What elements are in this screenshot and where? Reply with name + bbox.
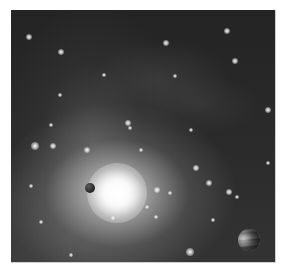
star: [173, 74, 177, 78]
star: [39, 220, 43, 224]
star: [102, 73, 106, 77]
star: [235, 195, 239, 199]
star: [265, 107, 271, 113]
gas-giant-planet: [238, 229, 260, 251]
star: [84, 147, 90, 153]
star: [226, 189, 232, 195]
star: [58, 93, 62, 97]
star: [139, 148, 143, 152]
star: [29, 184, 33, 188]
star: [206, 180, 212, 186]
star: [163, 40, 169, 46]
star: [193, 165, 199, 171]
star: [186, 248, 194, 256]
star: [69, 253, 73, 257]
star: [49, 123, 53, 127]
star: [232, 58, 238, 64]
nebula-cloud: [11, 10, 275, 262]
star: [224, 28, 230, 34]
star: [26, 34, 32, 40]
star: [211, 218, 215, 222]
star: [58, 49, 64, 55]
star: [128, 126, 132, 130]
star: [189, 128, 193, 132]
star: [145, 205, 149, 209]
star: [168, 191, 172, 195]
star: [31, 142, 39, 150]
star: [154, 187, 160, 193]
star: [266, 161, 270, 165]
star: [154, 215, 158, 219]
small-planet: [85, 183, 95, 193]
star: [50, 143, 56, 149]
space-illustration: [11, 10, 276, 263]
bright-star: [87, 163, 147, 223]
